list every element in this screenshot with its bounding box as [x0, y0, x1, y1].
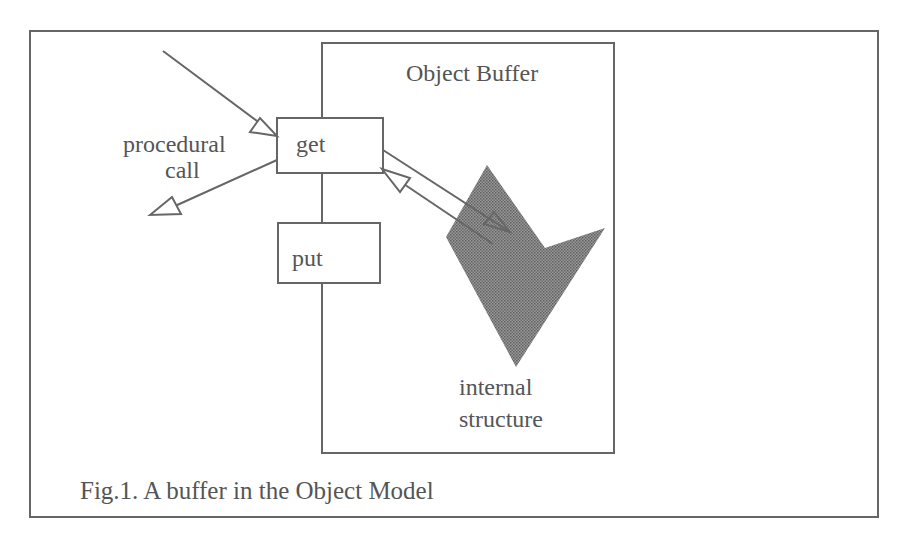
internal-structure-shape — [446, 165, 605, 367]
incoming-arrowhead-icon — [250, 118, 277, 136]
get-arrowhead-icon — [382, 169, 410, 192]
put-label: put — [292, 245, 323, 271]
diagram-canvas: Object Buffer get put procedural call in… — [0, 0, 903, 542]
figure-caption: Fig.1. A buffer in the Object Model — [80, 477, 434, 504]
get-label: get — [296, 131, 326, 157]
procedural-call-label-line1: procedural — [123, 131, 226, 157]
internal-structure-label-line2: structure — [459, 406, 543, 432]
internal-structure-label-line1: internal — [459, 374, 533, 400]
return-arrowhead-icon — [150, 197, 181, 215]
object-buffer-label: Object Buffer — [406, 60, 538, 86]
procedural-call-label-line2: call — [165, 157, 200, 183]
figure-frame — [30, 31, 878, 517]
get-box — [277, 118, 383, 173]
